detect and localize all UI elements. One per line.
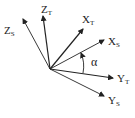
- label-z-t: ZT: [41, 3, 53, 17]
- label-y-t: YT: [117, 72, 130, 86]
- axis-z-s: [23, 19, 50, 69]
- label-y-s: YS: [108, 94, 120, 108]
- axis-x-t: [50, 29, 83, 69]
- label-x-s: XS: [108, 35, 120, 49]
- label-x-t: XT: [82, 13, 95, 27]
- coordinate-frames-diagram: ZT ZS XT XS YT YS α: [0, 0, 135, 118]
- label-z-s: ZS: [4, 24, 15, 38]
- axis-z-t: [43, 16, 50, 69]
- angle-alpha-arc: [81, 53, 84, 73]
- label-alpha: α: [91, 55, 98, 69]
